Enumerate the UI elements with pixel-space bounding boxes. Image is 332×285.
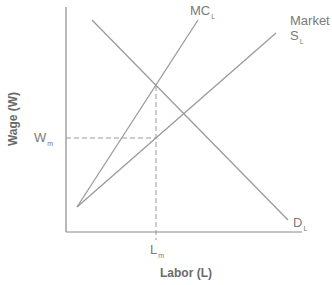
mc-label-sub: L	[211, 13, 215, 20]
lm-label-main: L	[150, 242, 157, 257]
sl-label-main: S	[290, 28, 299, 43]
dl-label-sub: L	[303, 225, 307, 232]
dl-label-main: D	[293, 215, 302, 230]
mc-label: MCL	[190, 4, 215, 17]
lm-tick-label: Lm	[150, 243, 164, 256]
supply-curve-sl	[77, 33, 276, 207]
x-axis-title: Labor (L)	[160, 266, 212, 280]
market-label: Market	[290, 14, 330, 27]
y-axis-title: Wage (W)	[6, 92, 20, 146]
dl-label: DL	[293, 216, 307, 229]
marginal-cost-curve-mcl	[77, 20, 198, 207]
wm-label-main: W	[34, 130, 46, 145]
demand-curve-dl	[92, 20, 288, 220]
sl-label-sub: L	[300, 38, 304, 45]
wm-tick-label: Wm	[34, 131, 53, 144]
lm-label-sub: m	[158, 252, 164, 259]
wm-label-sub: m	[47, 140, 53, 147]
sl-label: SL	[290, 29, 304, 42]
mc-label-main: MC	[190, 3, 210, 18]
